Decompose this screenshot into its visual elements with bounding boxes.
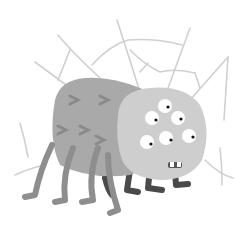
eye	[140, 135, 154, 149]
eye	[158, 99, 172, 113]
eye	[159, 131, 173, 145]
spider-illustration	[0, 0, 245, 226]
eye	[182, 129, 196, 143]
eye	[171, 111, 185, 125]
eye	[145, 111, 159, 125]
mouth	[168, 162, 182, 168]
